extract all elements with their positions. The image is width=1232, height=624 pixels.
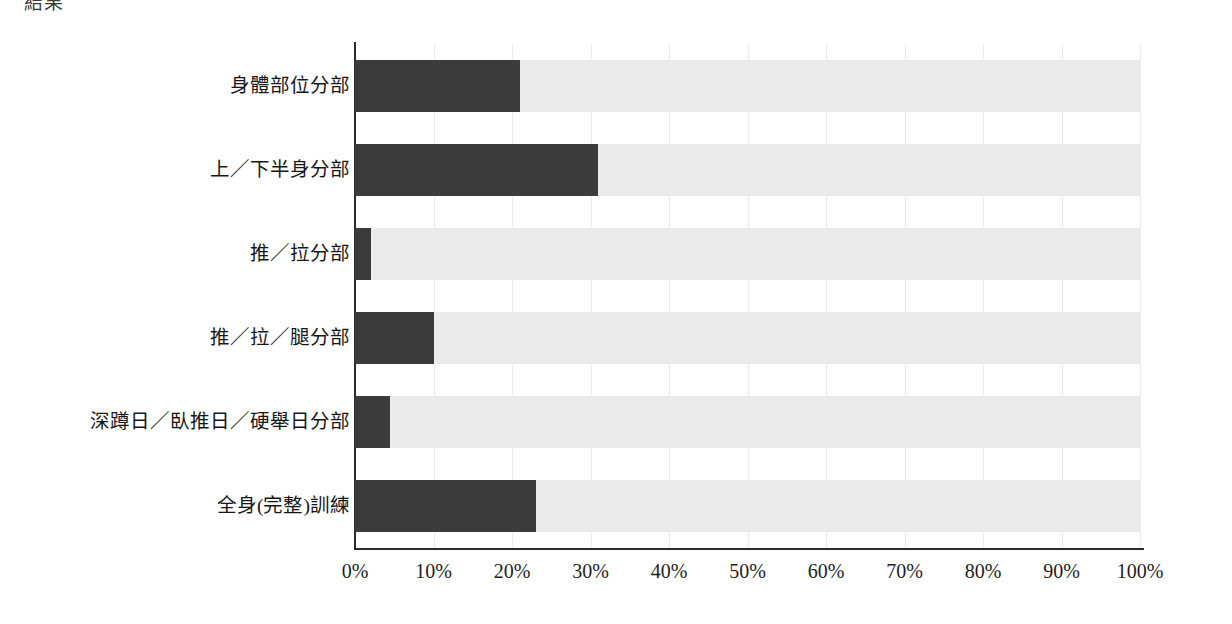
- x-tick-label: 80%: [938, 558, 1028, 584]
- gridline: [1140, 44, 1141, 548]
- bar-value: [355, 228, 371, 280]
- x-tick-label: 100%: [1095, 558, 1185, 584]
- bar-value: [355, 60, 520, 112]
- x-tick-label: 20%: [467, 558, 557, 584]
- gridline: [434, 44, 435, 548]
- bar-value: [355, 396, 390, 448]
- gridline: [512, 44, 513, 548]
- plot-area: [355, 44, 1140, 548]
- x-tick-label: 40%: [624, 558, 714, 584]
- gridline: [748, 44, 749, 548]
- gridline: [983, 44, 984, 548]
- bar-track: [355, 396, 1140, 448]
- gridline: [591, 44, 592, 548]
- gridline: [669, 44, 670, 548]
- horizontal-bar-chart: 身體部位分部上／下半身分部推／拉分部推／拉／腿分部深蹲日／臥推日／硬舉日分部全身…: [0, 0, 1232, 624]
- category-label: 上／下半身分部: [20, 158, 350, 182]
- bar-row: [355, 312, 1140, 364]
- x-tick-label: 0%: [310, 558, 400, 584]
- bar-row: [355, 396, 1140, 448]
- bar-row: [355, 480, 1140, 532]
- gridline: [826, 44, 827, 548]
- x-tick-label: 90%: [1017, 558, 1107, 584]
- bar-value: [355, 312, 434, 364]
- category-label: 深蹲日／臥推日／硬舉日分部: [20, 410, 350, 434]
- gridline: [905, 44, 906, 548]
- category-label: 推／拉分部: [20, 242, 350, 266]
- gridline: [1062, 44, 1063, 548]
- bar-row: [355, 228, 1140, 280]
- x-tick-label: 60%: [781, 558, 871, 584]
- x-axis-line: [354, 548, 1144, 550]
- bar-value: [355, 480, 536, 532]
- category-label: 推／拉／腿分部: [20, 326, 350, 350]
- bar-row: [355, 144, 1140, 196]
- category-label: 全身(完整)訓練: [20, 494, 350, 518]
- x-tick-label: 50%: [703, 558, 793, 584]
- x-tick-label: 70%: [860, 558, 950, 584]
- bar-row: [355, 60, 1140, 112]
- category-label: 身體部位分部: [20, 74, 350, 98]
- bar-track: [355, 228, 1140, 280]
- bar-track: [355, 312, 1140, 364]
- bar-value: [355, 144, 598, 196]
- x-tick-label: 30%: [546, 558, 636, 584]
- x-tick-label: 10%: [389, 558, 479, 584]
